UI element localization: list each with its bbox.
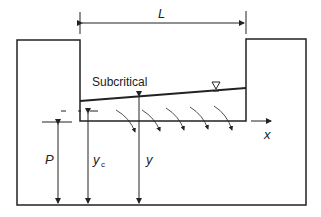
depth-arrows: [58, 96, 139, 203]
depth-label: y: [145, 152, 154, 167]
length-label: L: [158, 6, 165, 21]
critical-depth-subscript: c: [101, 160, 105, 169]
critical-depth-label: y: [92, 152, 101, 167]
regime-label: Subcritical: [92, 75, 147, 89]
weir-height-label: P: [45, 152, 54, 167]
x-axis-label: x: [263, 127, 271, 142]
outflow-arrows: [116, 106, 232, 132]
channel-diagram: L Subcritical P y c y x: [0, 0, 321, 217]
water-surface-line: [80, 88, 246, 101]
